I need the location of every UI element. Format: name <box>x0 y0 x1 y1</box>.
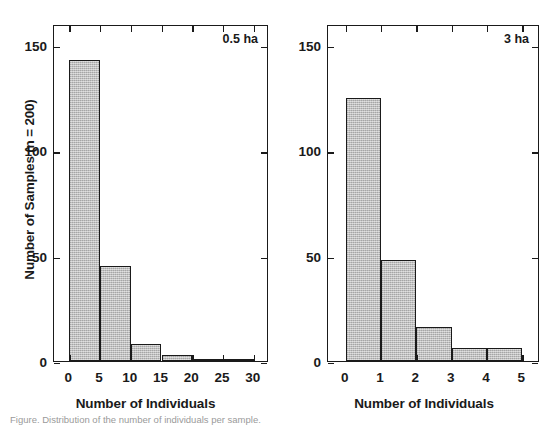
x-tick-label: 0 <box>65 370 73 385</box>
x-tick-label: 1 <box>376 370 384 385</box>
histogram-bar <box>100 266 131 361</box>
y-tick-mark <box>54 152 60 153</box>
y-tick-mark <box>261 152 267 153</box>
x-tick-mark <box>131 26 132 32</box>
x-tick-mark <box>69 26 70 32</box>
y-tick-mark <box>261 258 267 259</box>
x-tick-mark <box>254 26 255 32</box>
histogram-bar <box>69 60 100 361</box>
y-tick-mark <box>261 47 267 48</box>
y-tick-label: 0 <box>5 355 47 370</box>
y-tick-label: 50 <box>5 249 47 264</box>
x-tick-label: 10 <box>122 370 137 385</box>
y-tick-mark <box>532 152 538 153</box>
x-tick-mark <box>162 355 163 361</box>
x-tick-mark <box>487 26 488 32</box>
panel-annotation-right: 3 ha <box>504 32 529 46</box>
x-tick-label: 15 <box>153 370 168 385</box>
x-tick-label: 30 <box>245 370 260 385</box>
y-tick-mark <box>328 152 334 153</box>
y-tick-mark <box>54 47 60 48</box>
x-tick-mark <box>522 26 523 32</box>
x-tick-label: 0 <box>341 370 349 385</box>
x-tick-mark <box>416 355 417 361</box>
x-tick-mark <box>381 26 382 32</box>
x-tick-mark <box>254 355 255 361</box>
x-tick-mark <box>69 355 70 361</box>
x-tick-mark <box>223 26 224 32</box>
y-tick-label: 50 <box>279 249 321 264</box>
y-tick-mark <box>328 363 334 364</box>
y-tick-mark <box>261 363 267 364</box>
histogram-bar <box>487 348 522 361</box>
y-tick-mark <box>532 258 538 259</box>
y-tick-mark <box>532 47 538 48</box>
histogram-bar <box>381 260 416 361</box>
x-tick-mark <box>416 26 417 32</box>
plot-area-right: 3 ha <box>327 25 539 362</box>
histogram-bar <box>223 359 254 361</box>
histogram-bar <box>162 355 193 361</box>
x-tick-mark <box>522 355 523 361</box>
y-tick-mark <box>532 363 538 364</box>
x-tick-mark <box>381 355 382 361</box>
y-tick-label: 150 <box>5 39 47 54</box>
histogram-bar <box>192 359 223 361</box>
x-tick-mark <box>452 355 453 361</box>
x-tick-mark <box>192 26 193 32</box>
histogram-bar <box>346 98 381 361</box>
x-tick-mark <box>487 355 488 361</box>
histogram-bar <box>131 344 162 361</box>
x-tick-mark <box>131 355 132 361</box>
x-tick-mark <box>452 26 453 32</box>
histogram-bar <box>416 327 451 361</box>
histogram-bar <box>452 348 487 361</box>
figure-caption: Figure. Distribution of the number of in… <box>10 414 550 425</box>
y-tick-mark <box>54 363 60 364</box>
x-axis-title-left: Number of Individuals <box>38 396 253 411</box>
x-tick-mark <box>346 355 347 361</box>
x-tick-mark <box>192 355 193 361</box>
x-tick-label: 20 <box>184 370 199 385</box>
y-tick-label: 0 <box>279 355 321 370</box>
x-tick-label: 2 <box>412 370 420 385</box>
y-tick-label: 100 <box>5 144 47 159</box>
x-tick-mark <box>100 26 101 32</box>
y-tick-label: 100 <box>279 144 321 159</box>
x-tick-label: 4 <box>482 370 490 385</box>
panel-0-5-ha: 0.5 ha Number of Individuals 05101520253… <box>0 0 280 420</box>
x-tick-mark <box>346 26 347 32</box>
x-tick-label: 5 <box>518 370 526 385</box>
panel-3-ha: 3 ha Number of Individuals 0123450501001… <box>280 0 553 420</box>
plot-area-left: 0.5 ha <box>53 25 268 362</box>
x-tick-mark <box>162 26 163 32</box>
panel-annotation-left: 0.5 ha <box>223 32 258 46</box>
x-tick-mark <box>223 355 224 361</box>
x-tick-label: 25 <box>214 370 229 385</box>
y-tick-mark <box>54 258 60 259</box>
x-tick-label: 5 <box>95 370 103 385</box>
y-tick-mark <box>328 258 334 259</box>
x-tick-label: 3 <box>447 370 455 385</box>
y-tick-mark <box>328 47 334 48</box>
x-axis-title-right: Number of Individuals <box>318 396 530 411</box>
y-tick-label: 150 <box>279 39 321 54</box>
x-tick-mark <box>100 355 101 361</box>
